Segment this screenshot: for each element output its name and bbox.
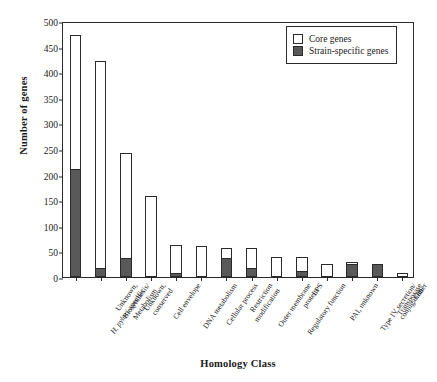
y-axis-title: Number of genes xyxy=(18,56,29,176)
bar-group[interactable] xyxy=(397,23,409,277)
bar-core-genes[interactable] xyxy=(95,61,107,277)
x-axis-tick-mark xyxy=(402,277,403,281)
bar-core-genes[interactable] xyxy=(321,264,333,277)
x-axis-tick-mark xyxy=(151,277,152,281)
x-axis-tick-mark xyxy=(201,277,202,281)
x-axis-tick-mark xyxy=(176,277,177,281)
bar-strain-specific-genes[interactable] xyxy=(346,264,358,277)
x-axis-tick-mark xyxy=(226,277,227,281)
bar-strain-specific-genes[interactable] xyxy=(70,169,82,277)
x-axis-tick-labels: Unknown,H. pylori-specificBiosynthesis/M… xyxy=(62,282,414,358)
bar-group[interactable] xyxy=(221,23,233,277)
bar-strain-specific-genes[interactable] xyxy=(246,268,258,277)
bar-core-genes[interactable] xyxy=(170,245,182,277)
bar-strain-specific-genes[interactable] xyxy=(372,264,384,277)
legend-item-strain-specific-genes: Strain-specific genes xyxy=(293,46,388,56)
bar-group[interactable] xyxy=(95,23,107,277)
bar-group[interactable] xyxy=(170,23,182,277)
bar-core-genes[interactable] xyxy=(145,196,157,277)
x-axis-tick-mark xyxy=(126,277,127,281)
bar-strain-specific-genes[interactable] xyxy=(120,258,132,277)
x-axis-title: Homology Class xyxy=(62,358,414,369)
x-axis-tick-mark xyxy=(352,277,353,281)
bar-chart-figure: Number of genes 500450400350300250200150… xyxy=(0,0,437,382)
legend-item-core-genes: Core genes xyxy=(293,34,388,44)
legend-label-core-genes: Core genes xyxy=(309,34,351,44)
bar-group[interactable] xyxy=(70,23,82,277)
legend-swatch-strain-specific-genes xyxy=(293,46,303,56)
x-axis-tick-label: Cell envelope xyxy=(172,282,203,321)
bar-core-genes[interactable] xyxy=(271,257,283,277)
y-axis-tick-mark xyxy=(59,279,63,280)
bar-group[interactable] xyxy=(120,23,132,277)
x-axis-tick-label: PAI, unknown xyxy=(349,282,381,323)
x-axis-tick-mark xyxy=(277,277,278,281)
x-axis-tick-mark xyxy=(101,277,102,281)
chart-legend: Core genes Strain-specific genes xyxy=(286,26,397,64)
bar-group[interactable] xyxy=(246,23,258,277)
legend-swatch-core-genes xyxy=(293,34,303,44)
x-axis-tick-mark xyxy=(76,277,77,281)
x-axis-tick-mark xyxy=(302,277,303,281)
legend-label-strain-specific-genes: Strain-specific genes xyxy=(309,46,388,56)
bar-strain-specific-genes[interactable] xyxy=(95,268,107,277)
bar-core-genes[interactable] xyxy=(196,246,208,277)
bar-strain-specific-genes[interactable] xyxy=(221,258,233,277)
bar-group[interactable] xyxy=(271,23,283,277)
x-axis-tick-mark xyxy=(327,277,328,281)
x-axis-tick-mark xyxy=(377,277,378,281)
bar-group[interactable] xyxy=(196,23,208,277)
bar-group[interactable] xyxy=(145,23,157,277)
